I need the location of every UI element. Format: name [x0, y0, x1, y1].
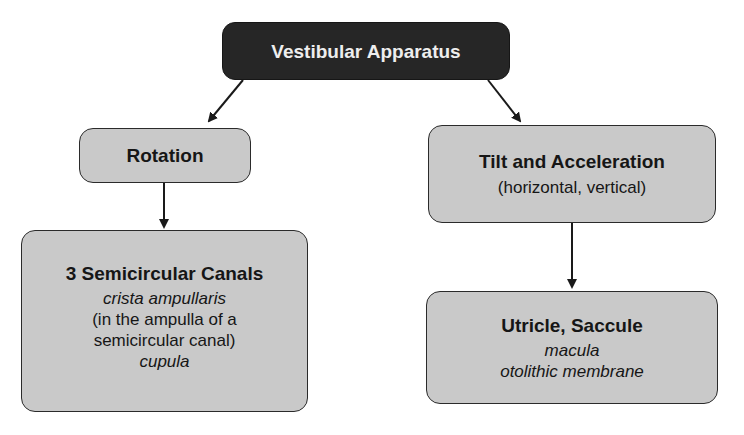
node-tilt-acceleration: Tilt and Acceleration (horizontal, verti…: [428, 125, 716, 223]
arrow-root-to-rotation: [209, 80, 243, 121]
node-line-macula: macula: [545, 340, 600, 361]
node-title: Tilt and Acceleration: [479, 150, 665, 173]
node-semicircular-canals: 3 Semicircular Canals crista ampullaris …: [21, 230, 308, 412]
node-utricle-saccule: Utricle, Saccule macula otolithic membra…: [426, 291, 718, 404]
node-subtitle: (horizontal, vertical): [498, 177, 646, 198]
node-title: Rotation: [126, 144, 203, 167]
node-line-crista-ampullaris: crista ampullaris: [103, 288, 226, 309]
arrow-root-to-tilt: [488, 80, 520, 121]
node-rotation: Rotation: [79, 128, 251, 183]
node-line-cupula: cupula: [139, 351, 189, 372]
node-title: Utricle, Saccule: [501, 314, 643, 337]
node-vestibular-apparatus: Vestibular Apparatus: [222, 22, 510, 80]
node-line-otolithic-membrane: otolithic membrane: [500, 361, 644, 382]
node-line-ampulla-location-1: (in the ampulla of a: [92, 309, 237, 330]
node-title: 3 Semicircular Canals: [66, 262, 264, 285]
node-title: Vestibular Apparatus: [271, 40, 460, 63]
node-line-ampulla-location-2: semicircular canal): [94, 330, 236, 351]
